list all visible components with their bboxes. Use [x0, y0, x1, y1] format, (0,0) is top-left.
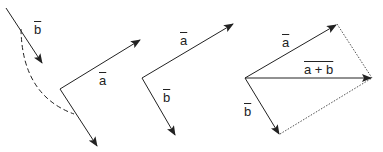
label-a-panel2: a	[180, 34, 187, 47]
panel-1	[6, 8, 140, 146]
label-b-panel3: b	[244, 105, 251, 118]
vector-addition-diagram: b a a b a a + b b	[0, 0, 383, 152]
vector-b-translated	[60, 89, 97, 146]
vector-b	[142, 78, 175, 135]
translation-arc-dashed	[21, 29, 74, 114]
label-a-panel3: a	[282, 36, 289, 49]
label-b-panel2: b	[163, 91, 170, 104]
panel-3	[245, 24, 372, 134]
parallelogram-side-top	[337, 24, 372, 78]
label-sum-panel3: a + b	[304, 63, 333, 76]
vector-a	[142, 24, 233, 78]
parallelogram-side-bottom	[280, 78, 372, 134]
label-b-panel1: b	[34, 23, 41, 36]
panel-2	[142, 24, 233, 135]
label-a-panel1: a	[99, 74, 106, 87]
